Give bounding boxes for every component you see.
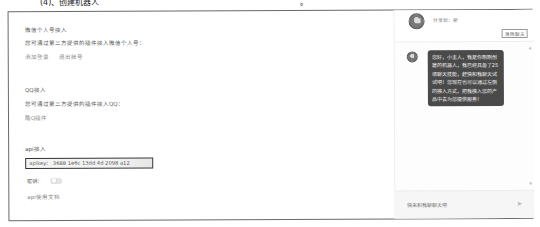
qq-plugin-link[interactable]: 酷Q插件 xyxy=(25,114,47,122)
chat-messages: 您好，小主人，我是你刚刚创建的机器人，我已经具备了25项聊天技能，赶快和我聊天试… xyxy=(395,42,535,193)
wechat-login-link[interactable]: 添加登录 xyxy=(25,53,49,61)
wechat-logout-link[interactable]: 退出账号 xyxy=(59,53,83,61)
apikey-field[interactable]: apikey： 3688 1e6c 13dd 4d 2098 a12 xyxy=(25,158,153,170)
send-icon[interactable]: ➤ xyxy=(516,200,524,208)
robot-integration-window: 微信个人号接入 您可通过第三方提供的插件接入微信个人号： 添加登录 退出账号 Q… xyxy=(8,9,534,221)
api-doc-link[interactable]: api使用文档 xyxy=(27,193,59,201)
chat-input-area[interactable]: 快来和我聊聊天吧 ➤ xyxy=(395,190,534,219)
clipped-heading-left: (4)、创建机器人 xyxy=(40,0,99,6)
integration-panel: 微信个人号接入 您可通过第三方提供的插件接入微信个人号： 添加登录 退出账号 Q… xyxy=(9,10,395,220)
bot-avatar-icon xyxy=(407,51,418,62)
qq-section-title: QQ接入 xyxy=(25,86,46,94)
clipped-heading: (4)、创建机器人 。 xyxy=(0,0,540,6)
scroll-up-arrow-icon[interactable]: ▲ xyxy=(529,46,532,50)
apikey-label: apikey： xyxy=(29,160,51,166)
scroll-down-arrow-icon[interactable]: ▼ xyxy=(529,182,532,186)
chat-scrollbar[interactable]: ▲ ▼ xyxy=(529,46,533,186)
apikey-value: 3688 1e6c 13dd 4d 2098 a12 xyxy=(53,160,130,166)
chat-panel: 分享到：新 清除聊天 您好，小主人，我是你刚刚创建的机器人，我已经具备了25项聊… xyxy=(394,10,535,219)
secret-label: 密钥： xyxy=(27,177,42,184)
wechat-description: 您可通过第三方提供的插件接入微信个人号： xyxy=(25,39,145,48)
secret-row: 密钥： xyxy=(27,177,62,184)
bot-message-bubble: 您好，小主人，我是你刚刚创建的机器人，我已经具备了25项聊天技能，赶快和我聊天试… xyxy=(428,50,504,107)
api-section-title: api接入 xyxy=(25,145,45,153)
clipped-heading-right: 。 xyxy=(300,0,308,6)
secret-toggle[interactable] xyxy=(50,177,62,183)
clear-chat-button[interactable]: 清除聊天 xyxy=(502,29,528,38)
share-text: 分享到：新 xyxy=(433,16,458,23)
wechat-section-title: 微信个人号接入 xyxy=(25,26,67,34)
qq-description: 您可通过第三方提供的插件接入QQ： xyxy=(25,100,124,108)
chat-input[interactable]: 快来和我聊聊天吧 xyxy=(407,201,447,208)
chat-header: 分享到：新 清除聊天 xyxy=(395,10,534,43)
robot-avatar-icon xyxy=(409,13,425,29)
